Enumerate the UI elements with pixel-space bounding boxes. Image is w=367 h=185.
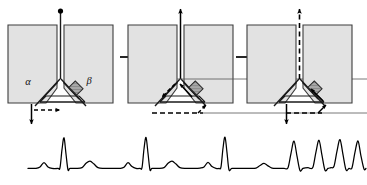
top-arrow-dot-p1 bbox=[58, 8, 63, 13]
fast-pathway-label-p1: β bbox=[85, 75, 92, 86]
av-nodal-reentry-figure: α β bbox=[0, 0, 367, 185]
slow-pathway-label-p1: α bbox=[25, 76, 31, 87]
figure-root: α β bbox=[0, 0, 367, 185]
